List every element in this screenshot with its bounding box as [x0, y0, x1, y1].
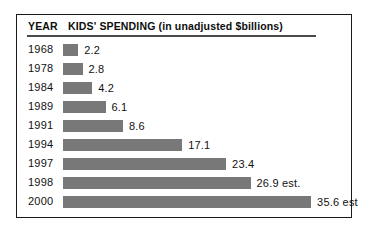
row-bar-group: 35.6 est — [63, 196, 358, 208]
row-value-label: 2.2 — [84, 44, 100, 56]
chart-row: 19682.2 — [17, 40, 351, 59]
chart-frame: YEAR KIDS' SPENDING (in unadjusted $bill… — [16, 14, 352, 218]
bar — [63, 82, 92, 94]
column-header-spending: KIDS' SPENDING (in unadjusted $billions) — [68, 20, 283, 32]
bar — [63, 196, 311, 208]
bar — [63, 120, 123, 132]
row-year-label: 2000 — [28, 195, 64, 207]
row-value-label: 2.8 — [89, 63, 105, 75]
row-year-label: 1968 — [28, 43, 64, 55]
row-year-label: 1984 — [28, 81, 64, 93]
row-year-label: 1994 — [28, 138, 64, 150]
row-bar-group: 2.2 — [63, 44, 100, 56]
row-year-label: 1998 — [28, 176, 64, 188]
bar — [63, 177, 251, 189]
row-year-label: 1991 — [28, 119, 64, 131]
row-bar-group: 23.4 — [63, 158, 254, 170]
bar — [63, 63, 83, 75]
chart-row: 199417.1 — [17, 135, 351, 154]
chart-row: 200035.6 est — [17, 192, 351, 211]
chart-row: 199826.9 est. — [17, 173, 351, 192]
chart-row: 19782.8 — [17, 59, 351, 78]
chart-row: 19844.2 — [17, 78, 351, 97]
column-header-year: YEAR — [28, 20, 58, 32]
row-value-label: 17.1 — [188, 139, 210, 151]
row-year-label: 1978 — [28, 62, 64, 74]
row-value-label: 26.9 est. — [257, 177, 301, 189]
chart-header: YEAR KIDS' SPENDING (in unadjusted $bill… — [17, 15, 351, 36]
row-bar-group: 17.1 — [63, 139, 210, 151]
chart-row: 19896.1 — [17, 97, 351, 116]
row-value-label: 23.4 — [232, 158, 254, 170]
chart-row: 199723.4 — [17, 154, 351, 173]
header-divider — [27, 35, 316, 37]
bar — [63, 101, 106, 113]
row-bar-group: 26.9 est. — [63, 177, 301, 189]
bar-chart-rows: 19682.219782.819844.219896.119918.619941… — [17, 40, 351, 211]
row-value-label: 35.6 est — [317, 196, 358, 208]
bar — [63, 139, 182, 151]
row-bar-group: 6.1 — [63, 101, 127, 113]
chart-row: 19918.6 — [17, 116, 351, 135]
row-year-label: 1997 — [28, 157, 64, 169]
row-year-label: 1989 — [28, 100, 64, 112]
row-bar-group: 4.2 — [63, 82, 114, 94]
row-value-label: 8.6 — [129, 120, 145, 132]
row-bar-group: 8.6 — [63, 120, 145, 132]
bar — [63, 44, 78, 56]
row-bar-group: 2.8 — [63, 63, 104, 75]
row-value-label: 4.2 — [98, 82, 114, 94]
row-value-label: 6.1 — [112, 101, 128, 113]
bar — [63, 158, 226, 170]
